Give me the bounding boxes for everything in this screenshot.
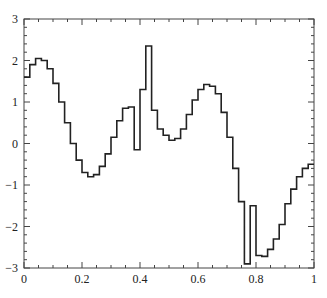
x-tick-label: 0.6 <box>191 272 206 286</box>
y-tick-label: 2 <box>12 54 18 68</box>
x-tick-label: 0.8 <box>249 272 264 286</box>
axis-ticks <box>24 19 314 268</box>
y-tick-label: −2 <box>5 220 18 234</box>
x-tick-label: 0.2 <box>75 272 90 286</box>
x-tick-label: 1 <box>311 272 317 286</box>
y-tick-label: 1 <box>12 95 18 109</box>
y-tick-label: 3 <box>12 12 18 26</box>
x-tick-label: 0.4 <box>133 272 148 286</box>
data-series-step-line <box>24 46 314 264</box>
y-tick-label: 0 <box>12 137 18 151</box>
plot-frame <box>24 19 314 268</box>
y-tick-label: −1 <box>5 178 18 192</box>
x-tick-label: 0 <box>21 272 27 286</box>
y-tick-label: −3 <box>5 261 18 275</box>
step-chart: 00.20.40.60.813210−1−2−3 <box>0 0 327 298</box>
axis-tick-labels: 00.20.40.60.813210−1−2−3 <box>5 12 317 286</box>
